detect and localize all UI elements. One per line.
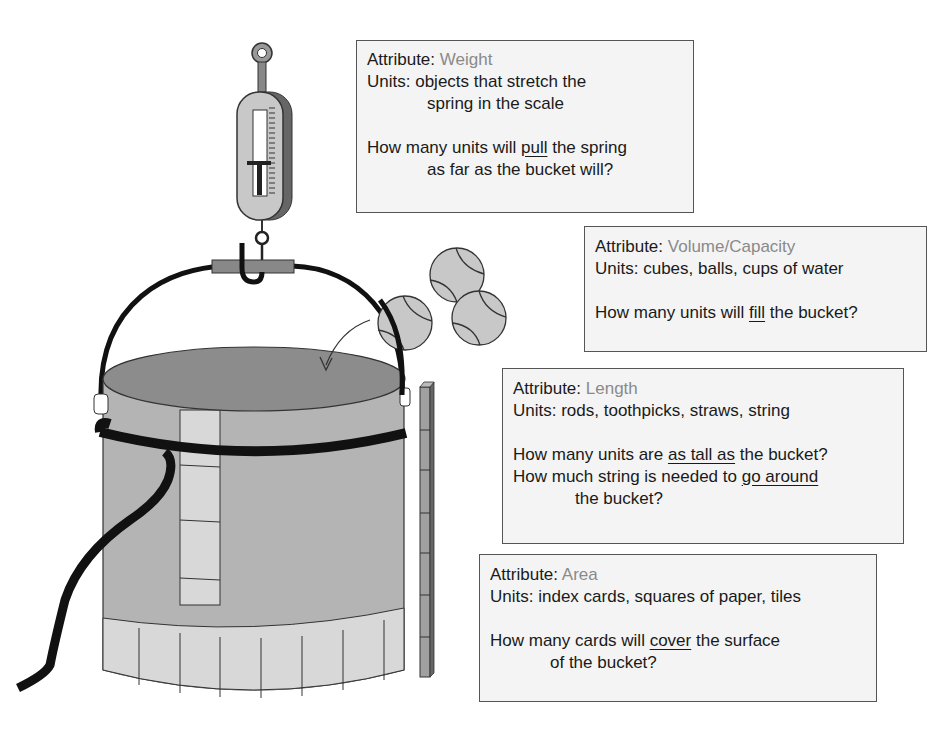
bucket-icon xyxy=(94,347,410,698)
area-attribute-box: Attribute: Area Units: index cards, squa… xyxy=(479,554,877,702)
question-text-cont: of the bucket? xyxy=(490,652,868,674)
attribute-label: Attribute: xyxy=(367,50,435,69)
question-text: How many units will xyxy=(367,138,521,157)
volume-attribute-box: Attribute: Volume/Capacity Units: cubes,… xyxy=(584,226,927,352)
question-keyword: as tall as xyxy=(668,445,735,464)
attribute-label: Attribute: xyxy=(490,565,558,584)
units-text: rods, toothpicks, straws, string xyxy=(561,401,790,420)
units-label: Units: xyxy=(367,72,410,91)
rod-stack-icon xyxy=(420,382,434,677)
units-label: Units: xyxy=(490,587,533,606)
units-text: cubes, balls, cups of water xyxy=(643,259,843,278)
question-keyword: fill xyxy=(749,303,765,322)
question-text-cont: as far as the bucket will? xyxy=(367,159,685,181)
units-text: objects that stretch the xyxy=(415,72,586,91)
attribute-value: Length xyxy=(586,379,638,398)
attribute-value: Volume/Capacity xyxy=(668,237,796,256)
attribute-label: Attribute: xyxy=(513,379,581,398)
question-keyword: pull xyxy=(521,138,547,157)
units-label: Units: xyxy=(513,401,556,420)
question-text: How many units are xyxy=(513,445,668,464)
attribute-label: Attribute: xyxy=(595,237,663,256)
units-label: Units: xyxy=(595,259,638,278)
attribute-value: Weight xyxy=(440,50,493,69)
length-attribute-box: Attribute: Length Units: rods, toothpick… xyxy=(502,368,904,544)
question-text: How much string is needed to xyxy=(513,467,742,486)
spring-scale-icon xyxy=(237,43,292,262)
weight-attribute-box: Attribute: Weight Units: objects that st… xyxy=(356,40,694,213)
question-keyword: cover xyxy=(650,631,692,650)
question-text: How many units will xyxy=(595,303,749,322)
units-text: index cards, squares of paper, tiles xyxy=(538,587,801,606)
question-text: How many cards will xyxy=(490,631,650,650)
question-keyword: go around xyxy=(742,467,819,486)
attribute-value: Area xyxy=(562,565,598,584)
units-text-cont: spring in the scale xyxy=(367,93,685,115)
question-text-cont: the bucket? xyxy=(513,488,895,510)
